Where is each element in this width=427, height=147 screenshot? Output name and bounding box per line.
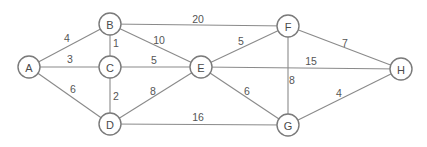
- graph-diagram: 43611020528165156874 ABCDEFGH: [0, 0, 427, 147]
- node-label: E: [197, 62, 204, 74]
- edge-weight-d-e: 8: [150, 85, 156, 97]
- edge-weight-b-c: 1: [113, 37, 119, 49]
- node-f: F: [277, 15, 299, 37]
- node-label: F: [285, 21, 292, 33]
- node-d: D: [99, 113, 121, 135]
- edge-e-f: [201, 26, 288, 67]
- node-c: C: [99, 56, 121, 78]
- edge-weight-e-g: 6: [244, 85, 250, 97]
- edge-g-h: [288, 69, 401, 125]
- node-g: G: [277, 114, 299, 136]
- node-label: A: [25, 62, 33, 74]
- node-b: B: [99, 13, 121, 35]
- node-label: D: [106, 119, 114, 131]
- node-label: G: [284, 120, 293, 132]
- edge-e-h: [201, 67, 401, 69]
- edge-weight-c-d: 2: [113, 90, 119, 102]
- edge-weight-a-d: 6: [70, 83, 76, 95]
- edge-d-g: [110, 124, 288, 125]
- edge-weight-f-g: 8: [289, 74, 295, 86]
- node-h: H: [390, 58, 412, 80]
- edge-weight-b-f: 20: [192, 13, 204, 25]
- edge-a-d: [29, 67, 110, 124]
- edge-weight-a-b: 4: [64, 32, 70, 44]
- edge-weight-f-h: 7: [342, 37, 348, 49]
- node-label: B: [106, 19, 113, 31]
- nodes-layer: ABCDEFGH: [18, 13, 412, 136]
- node-a: A: [18, 56, 40, 78]
- edge-weight-c-e: 5: [151, 54, 157, 66]
- graph-canvas: 43611020528165156874 ABCDEFGH: [0, 0, 427, 147]
- edge-weight-d-g: 16: [192, 111, 204, 123]
- node-e: E: [190, 56, 212, 78]
- node-label: H: [397, 64, 405, 76]
- edge-weight-a-c: 3: [67, 53, 73, 65]
- edge-weight-b-e: 10: [153, 34, 165, 46]
- edge-weight-e-f: 5: [238, 35, 244, 47]
- node-label: C: [106, 62, 114, 74]
- edge-weight-e-h: 15: [305, 55, 317, 67]
- edge-weight-g-h: 4: [336, 87, 342, 99]
